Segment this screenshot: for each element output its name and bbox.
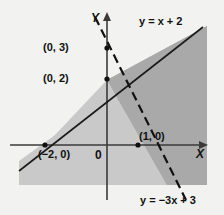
point-label-1-0: (1, 0) [139, 131, 165, 142]
equation-label-dashed-line: y = −3x + 3 [140, 195, 196, 206]
y-axis-arrow [103, 12, 111, 21]
graph-figure: Y X 0 (0, 3) (0, 2) (1, 0) (−2, 0) y = x… [0, 0, 224, 215]
origin-label: 0 [95, 149, 102, 161]
point-label-0-2: (0, 2) [43, 73, 69, 84]
x-axis-label: X [196, 148, 204, 160]
point-marker-0-2 [104, 76, 109, 81]
point-marker-1-0 [135, 142, 140, 147]
y-axis-label: Y [91, 12, 99, 24]
point-marker-neg2-0 [42, 142, 47, 147]
point-marker-0-3 [104, 45, 109, 50]
point-label-0-3: (0, 3) [43, 42, 69, 53]
point-label-neg2-0: (−2, 0) [38, 149, 70, 160]
coordinate-plane-svg [0, 0, 224, 215]
equation-label-solid-line: y = x + 2 [139, 16, 182, 27]
